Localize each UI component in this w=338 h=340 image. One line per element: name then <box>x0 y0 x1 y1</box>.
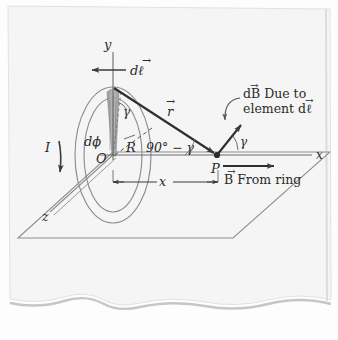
dphi-label: dϕ <box>84 134 101 149</box>
dB-caption-hat: → <box>250 80 259 91</box>
gamma-ring-label: γ <box>123 105 131 119</box>
origin-label: O <box>96 151 107 166</box>
z-axis-label: z <box>41 209 49 224</box>
screenshot-root: R y x O dℓ <box>0 0 338 340</box>
complement-angle: 90° − γ <box>146 139 195 155</box>
radius-label: R <box>125 140 136 155</box>
physics-diagram: R y x O dℓ <box>0 0 338 340</box>
B-from-ring-caption: B From ring <box>224 172 301 187</box>
y-axis-label: y <box>103 37 112 52</box>
current-label: I <box>44 140 51 155</box>
paper-sheet <box>8 6 331 309</box>
x-axis-label: x <box>316 148 323 162</box>
r-vector-hat: → <box>166 95 175 108</box>
dl-vector-hat: → <box>142 54 151 67</box>
gamma-field-label: γ <box>240 135 248 149</box>
x-dim-label: x <box>159 174 166 189</box>
complement-angle-label: 90° − γ <box>146 140 195 155</box>
B-caption-hat: → <box>227 166 236 177</box>
notebook-paper: R y x O dℓ <box>0 0 338 340</box>
point-p-label: P <box>210 161 220 176</box>
dl-caption-hat: → <box>305 95 314 106</box>
dB-caption-line2: element dℓ <box>243 101 312 116</box>
